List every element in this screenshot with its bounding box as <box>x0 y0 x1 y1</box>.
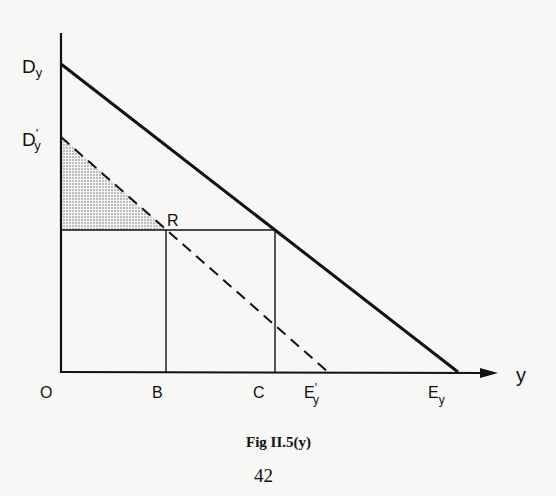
label-C: C <box>253 384 265 401</box>
diagram-canvas: Dy D'y R O B C E'y Ey y Fig II.5(y) 42 <box>0 0 556 496</box>
horizontal-axis <box>60 372 488 373</box>
page-number: 42 <box>254 465 273 486</box>
label-B: B <box>152 384 163 401</box>
label-origin: O <box>40 384 52 401</box>
label-R: R <box>167 212 179 229</box>
label-Dy-prime: D'y <box>22 126 41 153</box>
label-Ey: Ey <box>428 384 445 407</box>
demand-curve-Dy-prime-Ey-prime <box>61 137 328 372</box>
axis-arrow-icon <box>480 368 498 378</box>
label-Ey-prime: E'y <box>304 381 319 407</box>
label-Dy: Dy <box>22 56 43 80</box>
figure-caption: Fig II.5(y) <box>246 434 311 451</box>
x-axis-label: y <box>516 364 526 386</box>
